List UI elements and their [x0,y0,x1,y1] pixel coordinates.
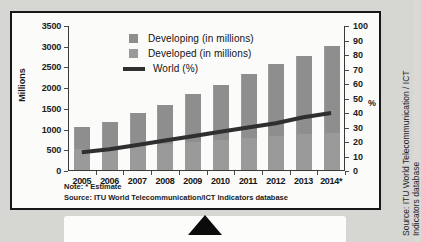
left-tick-label: 3000 [42,42,61,52]
note-source: Source: ITU World Telecommunication/ICT … [64,192,288,203]
x-tick-mark [262,171,263,175]
triangle-pointer-icon [188,215,222,235]
left-tick-label: 2000 [42,83,61,93]
left-tick-label: 1500 [42,104,61,114]
x-tick-mark [345,171,346,175]
x-tick-mark [179,171,180,175]
right-tick-label: 0 [353,166,358,176]
right-tick-mark [345,142,349,143]
right-tick-mark [345,55,349,56]
legend-label: Developed (in millions) [148,48,251,59]
right-tick-label: 10 [353,152,363,162]
right-tick-mark [345,26,349,27]
right-tick-label: 20 [353,137,363,147]
right-tick-label: 60 [353,79,363,89]
right-tick-mark [345,41,349,42]
right-tick-label: 100 [353,21,368,31]
right-tick-mark [345,113,349,114]
note-estimate: Note: * Estimate [64,181,288,192]
right-tick-mark [345,128,349,129]
right-tick-mark [345,157,349,158]
right-tick-label: 30 [353,123,363,133]
right-axis-title: % [368,98,376,108]
x-tick-mark [207,171,208,175]
right-tick-label: 80 [353,50,363,60]
right-tick-label: 70 [353,65,363,75]
chart-panel: Millions % 0500100015002000250030003500 … [10,11,381,210]
left-tick-label: 2500 [42,62,61,72]
x-tick-mark [151,171,152,175]
left-tick-label: 500 [47,145,61,155]
x-tick-mark [290,171,291,175]
left-tick-label: 3500 [42,21,61,31]
legend-square-marker [129,49,138,58]
credit-line-2: Indicators database [411,162,421,236]
x-tick-mark [123,171,124,175]
legend-label: Developing (in millions) [148,33,254,44]
right-tick-mark [345,99,349,100]
left-tick-label: 1000 [42,125,61,135]
chart-notes: Note: * Estimate Source: ITU World Telec… [64,181,288,203]
legend-square-marker [129,34,138,43]
legend-item: Developed (in millions) [129,46,329,61]
vertical-source-credit: Source: ITU World Telecommunication / IC… [384,8,410,238]
left-axis-title: Millions [17,68,27,102]
right-tick-mark [345,84,349,85]
right-tick-label: 40 [353,108,363,118]
x-tick-label: 2014* [320,176,342,186]
left-tick-mark [64,171,68,172]
x-tick-mark [317,171,318,175]
legend-item: World (%) [129,61,329,76]
x-tick-label: 2013 [294,176,313,186]
legend-label: World (%) [153,63,198,74]
x-tick-mark [96,171,97,175]
chart-legend: Developing (in millions)Developed (in mi… [129,31,329,76]
legend-item: Developing (in millions) [129,31,329,46]
right-tick-label: 90 [353,36,363,46]
right-tick-mark [345,70,349,71]
legend-line-marker [123,67,145,71]
credit-line-1: Source: ITU World Telecommunication / IC… [401,71,411,237]
left-tick-label: 0 [56,166,61,176]
x-tick-mark [234,171,235,175]
right-tick-label: 50 [353,94,363,104]
